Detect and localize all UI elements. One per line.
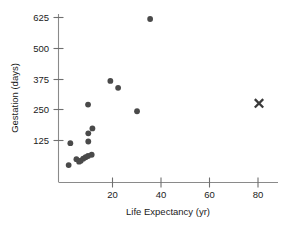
data-point	[89, 152, 95, 158]
plot-area: 625 500 375 250 125 Gestation (days) 20 …	[0, 0, 287, 226]
x-tick-label-20: 20	[107, 189, 118, 200]
y-axis-tick-labels: 625 500 375 250 125	[33, 12, 49, 146]
data-point	[67, 140, 73, 146]
data-point	[90, 126, 96, 132]
outlier-marker-x	[255, 99, 263, 107]
x-axis: 20 40 60 80 Life Expectancy (yr)	[59, 178, 279, 218]
data-points-layer	[66, 16, 263, 168]
data-point	[107, 78, 113, 84]
x-axis-title: Life Expectancy (yr)	[126, 206, 210, 217]
data-point	[85, 130, 91, 136]
y-tick-label-375: 375	[33, 74, 49, 85]
data-point	[147, 16, 153, 22]
y-axis-title: Gestation (days)	[9, 63, 20, 133]
y-tick-label-250: 250	[33, 104, 49, 115]
y-tick-label-125: 125	[33, 135, 49, 146]
data-point	[115, 85, 121, 91]
data-point	[66, 162, 72, 168]
y-tick-label-625: 625	[33, 12, 49, 23]
x-axis-tick-labels: 20 40 60 80	[107, 189, 263, 200]
data-point	[134, 108, 140, 114]
x-tick-label-40: 40	[156, 189, 167, 200]
y-tick-label-500: 500	[33, 43, 49, 54]
y-axis: 625 500 375 250 125 Gestation (days)	[9, 12, 64, 182]
data-point	[85, 102, 91, 108]
data-point	[85, 139, 91, 145]
x-tick-label-80: 80	[253, 189, 264, 200]
x-tick-label-60: 60	[204, 189, 215, 200]
scatter-chart: 625 500 375 250 125 Gestation (days) 20 …	[0, 0, 287, 226]
